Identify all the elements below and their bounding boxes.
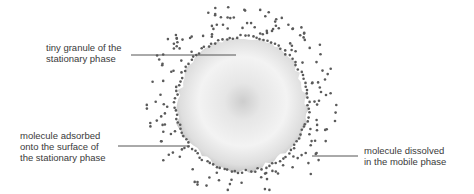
molecule-dot [221, 38, 224, 41]
molecule-dot [324, 140, 327, 143]
molecule-dot [275, 24, 278, 27]
molecule-dot [329, 68, 332, 71]
molecule-dot [180, 71, 183, 74]
molecule-dot [250, 22, 253, 25]
molecule-dot [154, 101, 157, 104]
molecule-dot [308, 111, 311, 114]
molecule-dot [175, 34, 178, 37]
molecule-dot [149, 122, 152, 125]
molecule-dot [246, 22, 249, 25]
molecule-dot [222, 23, 225, 26]
molecule-dot [282, 157, 285, 160]
molecule-dot [198, 156, 201, 159]
molecule-dot [325, 94, 328, 97]
molecule-dot [300, 26, 303, 29]
molecule-dot [226, 38, 229, 41]
molecule-dot [299, 133, 302, 136]
molecule-dot [294, 61, 297, 64]
molecule-dot [161, 124, 164, 127]
molecule-dot [161, 64, 164, 67]
molecule-dot [274, 20, 277, 23]
molecule-dot [315, 119, 318, 122]
molecule-dot [175, 45, 178, 48]
molecule-dot [265, 167, 268, 170]
molecule-dot [166, 105, 169, 108]
molecule-dot [319, 53, 322, 56]
molecule-dot [291, 166, 294, 169]
molecule-dot [264, 15, 267, 18]
molecule-dot [315, 152, 318, 155]
molecule-dot [315, 61, 318, 64]
molecule-dot [212, 28, 215, 31]
molecule-dot [243, 8, 246, 11]
molecule-dot [214, 7, 217, 10]
molecule-dot [216, 23, 219, 26]
molecule-dot [237, 172, 240, 175]
molecule-dot [303, 125, 306, 128]
molecule-dot [254, 170, 257, 173]
molecule-dot [201, 159, 204, 162]
molecule-dot [271, 170, 274, 173]
molecule-dot [291, 45, 294, 48]
molecule-dot [226, 168, 229, 171]
molecule-dot [259, 9, 262, 12]
molecule-dot [226, 27, 229, 30]
molecule-dot [226, 16, 229, 19]
molecule-dot [151, 81, 154, 84]
molecule-dot [231, 170, 234, 173]
molecule-dot [308, 108, 311, 111]
molecule-dot [191, 168, 194, 171]
molecule-dot [180, 132, 183, 135]
molecule-dot [278, 27, 281, 30]
molecule-dot [236, 37, 239, 40]
molecule-dot [170, 133, 173, 136]
molecule-dot [268, 165, 271, 168]
molecule-dot [266, 39, 269, 42]
molecule-dot [149, 125, 152, 128]
molecule-dot [229, 183, 232, 186]
molecule-dot [289, 42, 292, 45]
molecule-dot [282, 164, 285, 167]
molecule-dot [299, 34, 302, 37]
molecule-dot [304, 152, 307, 155]
molecule-dot [209, 162, 212, 165]
molecule-dot [218, 167, 221, 170]
molecule-dot [291, 58, 294, 61]
molecule-dot [326, 73, 329, 76]
molecule-dot [184, 66, 187, 69]
molecule-dot [271, 162, 274, 165]
molecule-dot [309, 128, 312, 131]
molecule-dot [279, 47, 282, 50]
molecule-dot [200, 47, 203, 50]
molecule-dot [241, 27, 244, 30]
molecule-dot [304, 39, 307, 42]
molecule-dot [214, 13, 217, 16]
molecule-dot [320, 91, 323, 94]
molecule-dot [167, 38, 170, 41]
molecule-dot [164, 123, 167, 126]
molecule-dot [284, 156, 287, 159]
molecule-dot [168, 154, 171, 157]
molecule-dot [267, 11, 270, 14]
molecule-dot [196, 152, 199, 155]
molecule-dot [266, 30, 269, 33]
molecule-dot [302, 77, 305, 80]
molecule-dot [172, 151, 175, 154]
molecule-dot [250, 170, 253, 173]
molecule-dot [319, 86, 322, 89]
label-granule: tiny granule of the stationary phase [46, 42, 122, 64]
molecule-dot [172, 69, 175, 72]
molecule-dot [306, 104, 309, 107]
molecule-dot [304, 82, 307, 85]
molecule-dot [302, 74, 305, 77]
molecule-dot [268, 189, 271, 192]
molecule-dot [306, 92, 309, 95]
molecule-dot [208, 45, 211, 48]
molecule-dot [216, 172, 219, 175]
molecule-dot [173, 107, 176, 110]
molecule-dot [181, 77, 184, 80]
molecule-dot [156, 119, 159, 122]
molecule-dot [233, 16, 236, 19]
molecule-dot [203, 46, 206, 49]
molecule-dot [229, 17, 232, 20]
